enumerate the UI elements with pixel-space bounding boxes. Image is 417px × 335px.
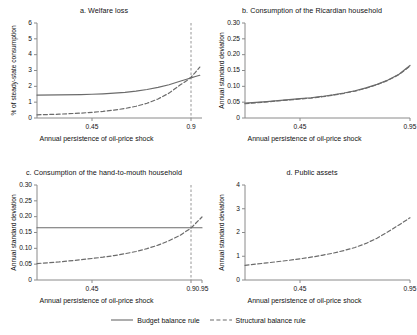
legend-entry-budget-balance-rule: Budget balance rule	[111, 317, 199, 324]
x-axis-tick-label: 0.95	[396, 123, 417, 130]
y-axis-tick-label: 1	[236, 252, 240, 259]
y-axis-tick-label: 0.05	[19, 260, 32, 267]
figure-panel-grid: a. Welfare loss 01234560.450.9% of stead…	[0, 0, 417, 335]
y-axis-tick-label: 0.25	[227, 35, 240, 42]
legend-label-budget-balance-rule: Budget balance rule	[137, 317, 199, 324]
y-axis-tick-label: 3	[28, 66, 32, 73]
y-axis-tick-label: 1	[28, 98, 32, 105]
y-axis-tick-label: 0	[236, 114, 240, 121]
x-axis-label: Annual persistence of oil-price shock	[14, 297, 179, 304]
solid-line-icon	[111, 317, 133, 323]
y-axis-tick-label: 2	[236, 228, 240, 235]
legend-label-structural-balance-rule: Structural balance rule	[236, 317, 306, 324]
x-axis-label: Annual persistence of oil-price shock	[14, 135, 179, 142]
y-axis-tick-label: 0.10	[227, 82, 240, 89]
y-axis-tick-label: 0.25	[19, 197, 32, 204]
figure-legend: Budget balance rule Structural balance r…	[0, 312, 417, 328]
y-axis-label: Annual standard deviation	[218, 23, 225, 118]
y-axis-label: Annual standard deviation	[10, 185, 17, 280]
x-axis-tick-label: 0.45	[286, 123, 314, 130]
series-line-budget-balance-rule	[37, 75, 200, 95]
x-axis-tick-label: 0.9	[177, 123, 205, 130]
chart-panel-b: b. Consumption of the Ricardian househol…	[208, 2, 416, 162]
y-axis-tick-label: 5	[28, 35, 32, 42]
legend-entry-structural-balance-rule: Structural balance rule	[210, 317, 306, 324]
y-axis-tick-label: 0.15	[19, 228, 32, 235]
y-axis-tick-label: 0.05	[227, 98, 240, 105]
series-line-structural-balance-rule	[245, 66, 410, 104]
x-axis-label: Annual persistence of oil-price shock	[222, 297, 387, 304]
x-axis-tick-label: 0.45	[78, 285, 106, 292]
x-axis-tick-label: 0.45	[286, 285, 314, 292]
y-axis-tick-label: 6	[28, 19, 32, 26]
y-axis-tick-label: 4	[236, 181, 240, 188]
y-axis-tick-label: 0	[28, 114, 32, 121]
y-axis-label: % of steady-state consumption	[10, 23, 17, 118]
dashed-line-icon	[210, 317, 232, 323]
y-axis-tick-label: 0	[28, 276, 32, 283]
y-axis-tick-label: 4	[28, 50, 32, 57]
y-axis-tick-label: 0.10	[19, 244, 32, 251]
series-line-structural-balance-rule	[245, 218, 410, 266]
y-axis-label: Annual standard deviation	[218, 185, 225, 280]
series-line-structural-balance-rule	[37, 217, 202, 264]
y-axis-tick-label: 2	[28, 82, 32, 89]
chart-panel-c: c. Consumption of the hand-to-mouth hous…	[0, 164, 208, 324]
y-axis-tick-label: 0.15	[227, 66, 240, 73]
y-axis-tick-label: 0.30	[19, 181, 32, 188]
x-axis-tick-label: 0.45	[78, 123, 106, 130]
x-axis-tick-label: 0.95	[396, 285, 417, 292]
x-axis-label: Annual persistence of oil-price shock	[222, 135, 387, 142]
y-axis-tick-label: 0	[236, 276, 240, 283]
chart-panel-a: a. Welfare loss 01234560.450.9% of stead…	[0, 2, 208, 162]
series-line-structural-balance-rule	[37, 67, 200, 115]
y-axis-tick-label: 3	[236, 205, 240, 212]
y-axis-tick-label: 0.20	[19, 212, 32, 219]
chart-panel-d: d. Public assets 012340.450.95Annual sta…	[208, 164, 416, 324]
y-axis-tick-label: 0.30	[227, 19, 240, 26]
y-axis-tick-label: 0.20	[227, 50, 240, 57]
series-line-budget-balance-rule	[245, 65, 410, 103]
